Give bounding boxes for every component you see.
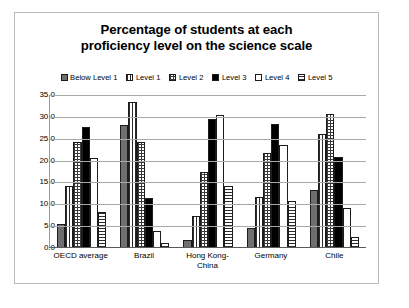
x-axis-tick-label-line: China (176, 261, 239, 271)
legend-label: Below Level 1 (70, 73, 117, 82)
bar[interactable] (65, 186, 73, 247)
legend-label: Level 5 (308, 73, 333, 82)
plot-wrapper: 0.05.010.015.020.025.030.035.0 OECD aver… (15, 95, 378, 285)
x-axis-tick-label-line: Germany (239, 251, 302, 261)
bar[interactable] (120, 125, 128, 247)
x-axis: OECD averageBrazilHong Kong-ChinaGermany… (49, 251, 366, 270)
bar[interactable] (288, 201, 296, 247)
bar[interactable] (343, 208, 351, 247)
bar[interactable] (351, 237, 359, 247)
bar[interactable] (57, 224, 65, 247)
legend-item-level-5[interactable]: Level 5 (298, 73, 332, 82)
legend-item-level-2[interactable]: Level 2 (169, 73, 203, 82)
gridline (50, 226, 366, 227)
chart-title-line-1: Percentage of students at each (15, 22, 378, 38)
bar[interactable] (271, 124, 279, 247)
legend-swatch-icon (126, 74, 133, 81)
chart-title-line-2: proficiency level on the science scale (15, 38, 378, 54)
legend-swatch-icon (298, 74, 305, 81)
gridline (50, 204, 366, 205)
bar[interactable] (263, 153, 271, 247)
bar[interactable] (224, 186, 232, 247)
bar[interactable] (73, 142, 81, 247)
x-axis-tick-label-line: Chile (303, 251, 366, 261)
bar[interactable] (98, 212, 106, 247)
bar[interactable] (90, 158, 98, 247)
legend-label: Level 4 (265, 73, 290, 82)
legend-swatch-icon (255, 74, 262, 81)
bar[interactable] (82, 127, 90, 247)
legend-item-below-level-1[interactable]: Below Level 1 (61, 73, 118, 82)
legend-swatch-icon (61, 74, 68, 81)
bar[interactable] (161, 243, 169, 247)
chart-frame: Percentage of students at each proficien… (14, 12, 379, 284)
bar[interactable] (318, 134, 326, 247)
bar[interactable] (192, 216, 200, 247)
chart-title: Percentage of students at each proficien… (15, 22, 378, 54)
legend-item-level-1[interactable]: Level 1 (126, 73, 160, 82)
gridline (50, 95, 366, 96)
gridline (50, 182, 366, 183)
bar[interactable] (247, 228, 255, 247)
x-axis-tick-label-line: Brazil (112, 251, 175, 261)
legend-item-level-4[interactable]: Level 4 (255, 73, 289, 82)
bar[interactable] (145, 198, 153, 247)
legend-label: Level 3 (222, 73, 247, 82)
legend-item-level-3[interactable]: Level 3 (212, 73, 246, 82)
bar[interactable] (183, 240, 191, 247)
legend-label: Level 1 (136, 73, 161, 82)
x-axis-tick-label: Chile (303, 251, 366, 270)
legend-label: Level 2 (179, 73, 204, 82)
x-axis-tick-label: Germany (239, 251, 302, 270)
bar[interactable] (200, 172, 208, 247)
bar[interactable] (153, 231, 161, 247)
plot-area (49, 95, 366, 248)
x-axis-tick-label: Brazil (112, 251, 175, 270)
gridline (50, 139, 366, 140)
gridline (50, 161, 366, 162)
chart-legend: Below Level 1Level 1Level 2Level 3Level … (15, 73, 378, 82)
x-axis-tick-label-line: Hong Kong- (176, 251, 239, 261)
bar[interactable] (216, 115, 224, 247)
gridline (50, 117, 366, 118)
bar[interactable] (310, 190, 318, 247)
bar[interactable] (137, 142, 145, 247)
legend-swatch-icon (169, 74, 176, 81)
x-axis-tick-label: Hong Kong-China (176, 251, 239, 270)
x-axis-tick-label: OECD average (49, 251, 112, 270)
bar[interactable] (334, 157, 342, 247)
legend-swatch-icon (212, 74, 219, 81)
x-axis-tick-label-line: OECD average (49, 251, 112, 261)
